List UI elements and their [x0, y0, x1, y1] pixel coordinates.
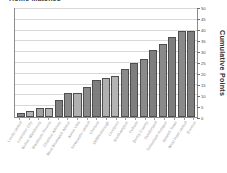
bar-slot: [63, 9, 72, 117]
x-axis-labels: Leeds UnitedLeicester CityBolton Wandere…: [14, 119, 198, 173]
x-label-slot: Chelsea: [92, 119, 102, 173]
y-tick-label: 45: [201, 17, 206, 22]
bar[interactable]: [130, 63, 138, 117]
bar-slot: [16, 9, 25, 117]
bar[interactable]: [121, 69, 129, 117]
bar-slot: [168, 9, 177, 117]
y-axis-title: Cumulative Points: [217, 8, 226, 118]
bar-slot: [92, 9, 101, 117]
bar-slot: [54, 9, 63, 117]
x-label-slot: Fulham: [130, 119, 140, 173]
bar-slot: [149, 9, 158, 117]
bar[interactable]: [26, 111, 34, 117]
bar[interactable]: [159, 44, 167, 117]
y-tick-mark: [197, 96, 200, 97]
y-tick-mark: [197, 52, 200, 53]
bar[interactable]: [64, 93, 72, 117]
bar-slot: [25, 9, 34, 117]
y-tick-label: 25: [201, 61, 206, 66]
bar-slot: [158, 9, 167, 117]
y-tick-mark: [197, 107, 200, 108]
bar[interactable]: [102, 78, 110, 117]
bar-slot: [73, 9, 82, 117]
bar-slot: [120, 9, 129, 117]
y-tick-mark: [197, 19, 200, 20]
y-tick-mark: [197, 85, 200, 86]
chart-canvas: Home Matches 05101520253035404550 Cumula…: [0, 0, 226, 173]
y-axis-title-text: Cumulative Points: [218, 30, 227, 96]
bar[interactable]: [140, 59, 148, 117]
bar[interactable]: [73, 93, 81, 117]
bar-slot: [82, 9, 91, 117]
bar[interactable]: [45, 108, 53, 117]
y-tick-label: 0: [201, 116, 203, 121]
bar[interactable]: [92, 80, 100, 117]
y-tick-mark: [197, 8, 200, 9]
bar-slot: [177, 9, 186, 117]
bar-slot: [139, 9, 148, 117]
y-tick-label: 20: [201, 72, 206, 77]
bar-slot: [44, 9, 53, 117]
y-tick-mark: [197, 74, 200, 75]
bar[interactable]: [168, 37, 176, 117]
bar-slot: [186, 9, 195, 117]
y-tick-mark: [197, 63, 200, 64]
y-tick-label: 40: [201, 28, 206, 33]
bar-slot: [130, 9, 139, 117]
bar[interactable]: [111, 76, 119, 117]
bar[interactable]: [55, 100, 63, 117]
y-tick-label: 15: [201, 83, 206, 88]
bar-slot: [101, 9, 110, 117]
y-axis: 05101520253035404550: [199, 8, 211, 118]
bar-slot: [35, 9, 44, 117]
plot-area: [14, 8, 198, 118]
y-tick-label: 50: [201, 6, 206, 11]
x-label-slot: Everton: [188, 119, 198, 173]
y-tick-label: 10: [201, 94, 206, 99]
y-tick-mark: [197, 30, 200, 31]
bar-series: [15, 9, 197, 117]
y-tick-mark: [197, 41, 200, 42]
bar-slot: [111, 9, 120, 117]
bar[interactable]: [187, 31, 195, 117]
y-tick-label: 5: [201, 105, 203, 110]
bar[interactable]: [36, 108, 44, 117]
y-tick-label: 30: [201, 50, 206, 55]
bar[interactable]: [149, 50, 157, 117]
bar[interactable]: [178, 31, 186, 117]
bar[interactable]: [83, 87, 91, 117]
y-tick-label: 35: [201, 39, 206, 44]
x-label-slot: Middlesbrough: [101, 119, 111, 173]
chart-title: Home Matches: [9, 0, 61, 1]
